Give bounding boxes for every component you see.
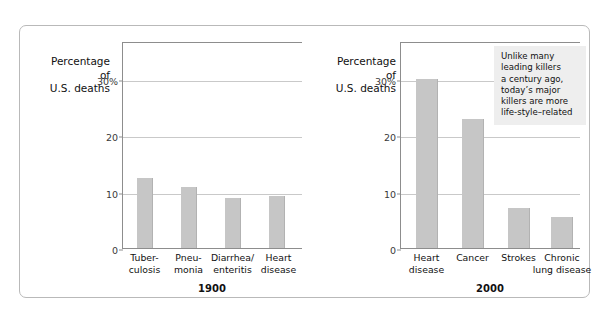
annotation-line-3: a century ago,	[501, 74, 580, 85]
bar-heart-disease-1900[interactable]	[269, 196, 285, 248]
bar-chronic-lung-disease[interactable]	[551, 217, 573, 248]
bar-heart-disease-2000[interactable]	[416, 79, 438, 249]
bar-strokes[interactable]	[508, 208, 530, 248]
bar-series-1900	[123, 43, 302, 248]
bar-diarrhea-enteritis[interactable]	[225, 198, 241, 248]
annotation-line-5: killers are more	[501, 96, 580, 107]
annotation-line-4: today’s major	[501, 85, 580, 96]
xlabel-heart-1900-line2: disease	[253, 264, 304, 276]
annotation-line-1: Unlike many	[501, 51, 580, 62]
ytick-label-30-2000: 30%	[375, 76, 396, 87]
plot-area-1900: 30% 20 10 0 Tuber- culosis Pneu- monia D…	[122, 42, 302, 249]
xlabel-chronic-lung-line2: lung disease	[526, 264, 598, 276]
annotation-callout: Unlike many leading killers a century ag…	[494, 46, 586, 125]
xlabel-diarrhea-line1: Diarrhea/	[206, 252, 259, 264]
ytick-label-0-2000: 0	[390, 245, 396, 256]
bar-tuberculosis[interactable]	[137, 178, 153, 248]
panel-year-1900: 1900	[122, 283, 302, 294]
x-axis-labels-1900: Tuber- culosis Pneu- monia Diarrhea/ ent…	[123, 248, 302, 282]
y-axis-caption-2000-line-1: Percentage	[308, 55, 396, 69]
bar-cancer[interactable]	[462, 119, 484, 248]
annotation-line-6: life-style–related	[501, 107, 580, 118]
xlabel-chronic-lung-line1: Chronic	[526, 252, 598, 264]
ytick-label-30-1900: 30%	[97, 76, 118, 87]
ytick-label-10-2000: 10	[384, 189, 396, 200]
xlabel-diarrhea-line2: enteritis	[206, 264, 259, 276]
ytick-label-10-1900: 10	[106, 189, 118, 200]
xlabel-heart-1900-line1: Heart	[253, 252, 304, 264]
xlabel-heart-2000-line2: disease	[400, 264, 453, 276]
bar-pneumonia[interactable]	[181, 187, 197, 249]
y-axis-caption-line-1: Percentage	[22, 55, 110, 69]
chart-panel-1900: Percentage of U.S. deaths 30% 20 10 0 Tu…	[0, 0, 305, 322]
annotation-line-2: leading killers	[501, 62, 580, 73]
ytick-label-20-1900: 20	[106, 132, 118, 143]
ytick-label-20-2000: 20	[384, 132, 396, 143]
panel-year-2000: 2000	[400, 283, 580, 294]
x-axis-labels-2000: Heart disease Cancer Strokes Chronic lun…	[401, 248, 580, 282]
